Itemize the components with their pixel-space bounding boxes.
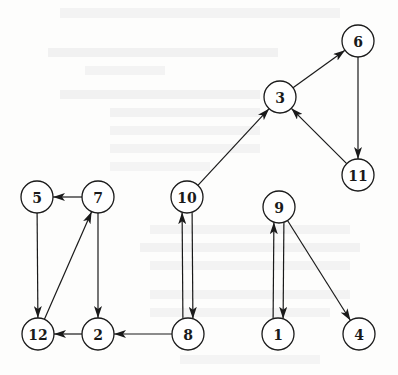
edge-11-to-3: [291, 108, 346, 163]
scanned-page: 123456789101112: [0, 0, 398, 375]
directed-graph: 123456789101112: [0, 0, 398, 375]
edge-3-to-6: [293, 50, 345, 87]
node-label: 12: [28, 327, 47, 343]
edge-9-to-4: [288, 221, 351, 321]
node-label: 2: [93, 327, 103, 343]
edge-10-to-3: [198, 109, 269, 186]
edge-8-to-10: [182, 212, 183, 319]
node-label: 9: [274, 200, 284, 216]
node-4: 4: [343, 318, 375, 350]
node-label: 5: [32, 190, 42, 206]
edge-1-to-9: [273, 222, 274, 319]
edge-9-to-1: [283, 222, 284, 319]
node-3: 3: [264, 81, 296, 113]
node-label: 1: [273, 327, 283, 343]
node-label: 6: [353, 34, 363, 50]
edge-12-to-7: [44, 212, 91, 320]
edge-5-to-12: [37, 213, 38, 318]
node-9: 9: [263, 191, 295, 223]
node-10: 10: [171, 181, 203, 213]
node-label: 10: [177, 190, 197, 206]
node-11: 11: [342, 159, 374, 191]
node-2: 2: [82, 318, 114, 350]
edge-10-to-8: [192, 212, 193, 319]
node-label: 4: [354, 327, 364, 343]
node-8: 8: [172, 318, 204, 350]
node-1: 1: [262, 318, 294, 350]
node-7: 7: [82, 181, 114, 213]
node-label: 8: [183, 327, 193, 343]
node-6: 6: [342, 25, 374, 57]
node-label: 3: [275, 90, 285, 106]
node-12: 12: [22, 318, 54, 350]
nodes-layer: 123456789101112: [21, 25, 375, 350]
node-label: 7: [93, 190, 103, 206]
node-5: 5: [21, 181, 53, 213]
node-label: 11: [348, 168, 367, 184]
